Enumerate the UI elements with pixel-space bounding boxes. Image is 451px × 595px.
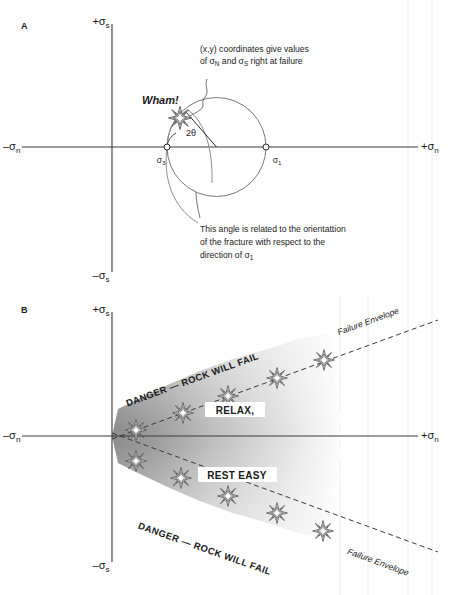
zone-label-rest-easy: REST EASY <box>198 467 277 482</box>
sigma3-point <box>164 144 170 150</box>
envelope-burst-lower-5 <box>313 521 334 542</box>
mohr-diagram-svg: A +σs –σs –σn +σn 2θ σ3 <box>0 0 451 595</box>
envelope-burst-upper-5 <box>314 350 335 371</box>
envelope-burst-lower-3 <box>218 486 239 507</box>
zone-label-rest-easy-text: REST EASY <box>207 470 266 481</box>
envelope-burst-upper-4 <box>267 368 288 389</box>
sigma1-point <box>263 144 269 150</box>
panel-a-label: A <box>21 21 28 31</box>
envelope-burst-lower-2 <box>171 468 192 489</box>
envelope-burst-upper-2 <box>173 403 194 424</box>
zone-label-relax: RELAX, <box>205 402 265 417</box>
two-theta-label: 2θ <box>186 128 196 138</box>
annotation-bottom-line3: direction of σ1 <box>200 250 254 261</box>
envelope-burst-lower-1 <box>126 451 147 472</box>
wham-label: Wham! <box>142 94 179 106</box>
zone-label-relax-text: RELAX, <box>216 405 254 416</box>
failure-burst-icon <box>168 106 191 129</box>
annotation-bottom-line1: This angle is related to the orientattio… <box>200 224 346 234</box>
annotation-top-line1: (x,y) coordinates give values <box>200 44 309 54</box>
annotation-bottom-line2: of the fracture with respect to the <box>200 237 325 247</box>
envelope-burst-upper-1 <box>126 420 147 441</box>
panel-b-label: B <box>21 305 28 315</box>
figure-container: A +σs –σs –σn +σn 2θ σ3 <box>0 0 451 595</box>
envelope-burst-lower-4 <box>267 503 288 524</box>
